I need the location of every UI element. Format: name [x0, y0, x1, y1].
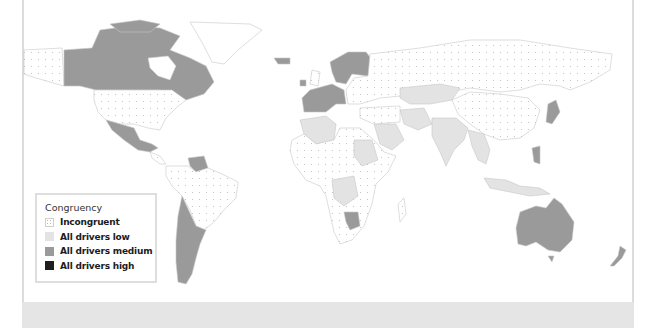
legend-label: All drivers low	[60, 232, 130, 242]
region-kazakhstan	[400, 84, 460, 104]
dotted-swatch-icon	[45, 218, 54, 227]
region-alaska	[24, 48, 64, 86]
legend-item-medium: All drivers medium	[45, 244, 155, 259]
region-iran	[400, 108, 432, 130]
legend-title: Congruency	[45, 201, 155, 215]
bottom-band	[22, 302, 634, 328]
region-usa	[94, 90, 186, 130]
region-iceland	[274, 58, 290, 64]
region-greenland	[190, 22, 262, 64]
map-legend: Congruency Incongruent All drivers low A…	[35, 193, 157, 283]
region-new-zealand	[610, 246, 626, 266]
region-brazil	[166, 166, 238, 230]
legend-label: Incongruent	[60, 217, 120, 227]
legend-item-low: All drivers low	[45, 230, 155, 245]
region-western-europe	[302, 84, 346, 112]
legend-item-high: All drivers high	[45, 259, 155, 274]
legend-label: All drivers medium	[60, 246, 152, 256]
light-gray-swatch-icon	[45, 232, 54, 241]
legend-label: All drivers high	[60, 261, 134, 271]
region-japan	[546, 100, 560, 124]
dark-swatch-icon	[45, 261, 54, 270]
region-india	[432, 118, 468, 166]
region-canada	[64, 26, 214, 100]
mid-gray-swatch-icon	[45, 247, 54, 256]
region-australia	[516, 198, 574, 252]
legend-item-incongruent: Incongruent	[45, 215, 155, 230]
